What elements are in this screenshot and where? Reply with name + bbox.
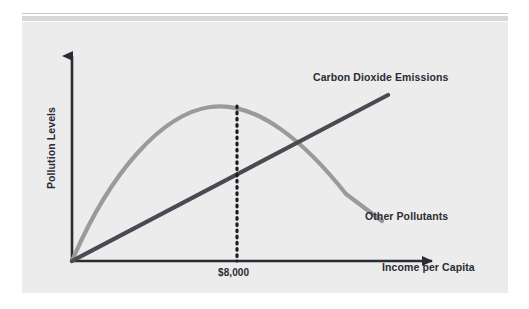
x-axis-title: Income per Capita [382,261,475,273]
chart-plot-area [22,22,508,293]
y-axis-title: Pollution Levels [45,93,57,203]
chart-panel: Pollution Levels Income per Capita Carbo… [22,22,508,293]
series-label-other-pollutants: Other Pollutants [365,210,448,222]
x-axis-tick-label-8000: $8,000 [218,267,249,278]
top-rule-thin-line [22,13,508,14]
series-label-carbon-dioxide-emissions: Carbon Dioxide Emissions [313,71,448,83]
decorative-top-rule-band [22,13,508,21]
top-rule-thick-line [22,16,508,21]
